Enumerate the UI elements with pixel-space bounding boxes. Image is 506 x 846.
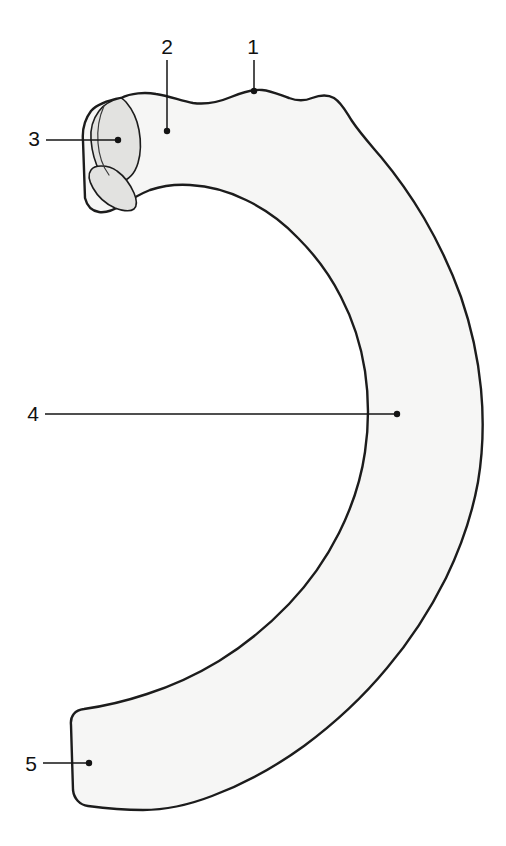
callout-number-4: 4 [27,402,39,425]
callout-4[interactable]: 4 [27,402,400,425]
leader-dot-5 [86,760,92,766]
callout-number-3: 3 [28,127,40,150]
leader-dot-4 [394,411,400,417]
leader-dot-3 [115,137,121,143]
rib-diagram-svg: 1 2 3 4 5 [0,0,506,846]
callout-number-1: 1 [247,35,259,58]
callout-number-2: 2 [161,35,173,58]
callout-1[interactable]: 1 [247,35,259,95]
leader-dot-2 [164,128,170,134]
rib-diagram-figure: 1 2 3 4 5 [0,0,506,846]
leader-dot-1 [251,88,257,94]
callout-number-5: 5 [25,752,37,775]
